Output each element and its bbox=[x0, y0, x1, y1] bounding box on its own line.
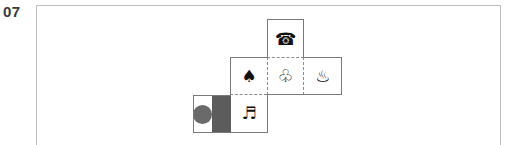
face-middle-right: ♨ bbox=[304, 57, 342, 95]
telephone-icon: ☎ bbox=[275, 31, 296, 48]
face-middle-left: ♠ bbox=[230, 57, 267, 95]
spade-icon: ♠ bbox=[241, 68, 256, 85]
question-number: 07 bbox=[3, 3, 21, 20]
shaded-band bbox=[212, 96, 231, 132]
music-notes-icon: ♬ bbox=[241, 105, 256, 122]
circle-shape bbox=[193, 105, 212, 124]
face-middle-center: ♧ bbox=[267, 57, 304, 95]
club-outline-icon: ♧ bbox=[277, 67, 293, 85]
face-bottom-left bbox=[193, 95, 231, 133]
face-top: ☎ bbox=[267, 19, 304, 58]
face-bottom-center: ♬ bbox=[231, 95, 268, 133]
hot-springs-icon: ♨ bbox=[315, 68, 330, 85]
